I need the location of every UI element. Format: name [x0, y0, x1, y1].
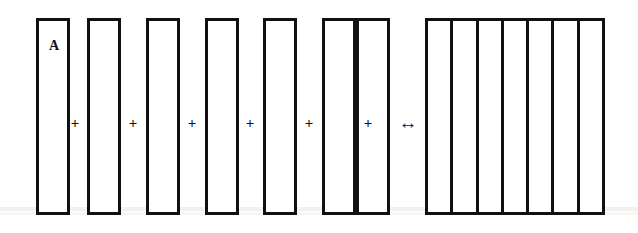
- double-arrow-icon: ↔: [395, 113, 421, 132]
- bar-5: [263, 18, 297, 215]
- block-cell: [504, 21, 529, 212]
- bar-label-a: A: [49, 39, 59, 53]
- block-cell: [529, 21, 554, 212]
- block-cell: [580, 21, 602, 212]
- bar-6: [322, 18, 356, 215]
- assembled-block: [425, 18, 605, 215]
- block-cell: [554, 21, 579, 212]
- bar-2: [87, 18, 121, 215]
- plus-operator-1: +: [62, 116, 88, 131]
- plus-operator-4: +: [237, 116, 263, 131]
- block-cell: [428, 21, 453, 212]
- bar-4: [205, 18, 239, 215]
- plus-operator-6: +: [355, 116, 381, 131]
- block-cell: [479, 21, 504, 212]
- bar-3: [146, 18, 180, 215]
- plus-operator-3: +: [179, 116, 205, 131]
- plus-operator-2: +: [120, 116, 146, 131]
- block-cell: [453, 21, 478, 212]
- plus-operator-5: +: [296, 116, 322, 131]
- diagram-canvas: A + + + + + + ↔: [0, 0, 638, 233]
